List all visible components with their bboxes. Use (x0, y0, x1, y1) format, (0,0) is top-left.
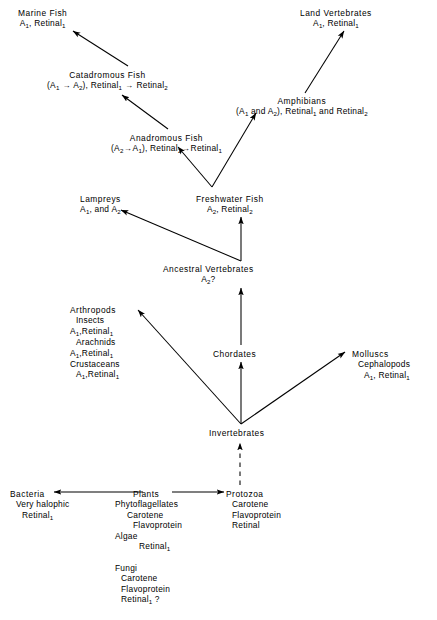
edge-catadromous-to-marine (73, 31, 128, 66)
node-detail: Flavoprotein (115, 584, 182, 594)
node-detail: (A1 → A2), Retinal1 → Retinal2 (47, 80, 168, 91)
node-chordates: Chordates (213, 349, 256, 359)
edge-amphibians-to-land (305, 31, 344, 93)
edge-layer (0, 0, 437, 620)
node-detail: Retinal1 (10, 510, 70, 521)
node-title: Invertebrates (209, 428, 264, 438)
node-freshwater-fish: Freshwater FishA2, Retinal2 (196, 194, 264, 216)
edge-invertebrates-to-arthropods (138, 310, 241, 424)
node-marine-fish: Marine FishA1, Retinal1 (18, 8, 67, 30)
node-detail: Retinal (226, 520, 281, 530)
node-title: Marine Fish (18, 8, 67, 18)
node-bacteria: BacteriaVery halophicRetinal1 (10, 489, 70, 521)
node-amphibians: Amphibians(A1 and A2), Retinal1 and Reti… (236, 96, 368, 118)
evolution-flow-diagram: Marine FishA1, Retinal1Land VertebratesA… (0, 0, 437, 620)
node-detail: Retinal1 (115, 541, 182, 552)
node-detail: Fungi (115, 563, 182, 573)
node-ancestral-vertebrates: Ancestral VertebratesA2? (163, 264, 254, 286)
node-detail: Cephalopods (352, 359, 410, 369)
node-detail: A2? (163, 274, 254, 285)
node-title: Plants (115, 489, 182, 499)
node-detail: A1, and A2 (80, 204, 121, 215)
node-title: Lampreys (80, 194, 121, 204)
node-detail: Phytoflagellates (115, 499, 182, 509)
node-detail: (A1 and A2), Retinal1 and Retinal2 (236, 106, 368, 117)
edge-anadromous-to-catadromous (122, 95, 168, 129)
node-title: Ancestral Vertebrates (163, 264, 254, 274)
node-detail: A1, Retinal1 (300, 18, 372, 29)
node-anadromous-fish: Anadromous Fish(A2→A1), Retinal2→Retinal… (111, 133, 222, 155)
node-title: Amphibians (236, 96, 368, 106)
node-detail: Crustaceans (70, 359, 120, 369)
edge-invertebrates-to-molluscs (241, 352, 345, 424)
node-detail: Carotene (115, 573, 182, 583)
node-detail: Arachnids (70, 337, 120, 347)
node-title: Bacteria (10, 489, 70, 499)
node-detail: A1,Retinal1 (70, 326, 120, 337)
node-catadromous-fish: Catadromous Fish(A1 → A2), Retinal1 → Re… (47, 70, 168, 92)
node-detail: Flavoprotein (226, 510, 281, 520)
node-title: Land Vertebrates (300, 8, 372, 18)
edge-ancestral-to-lampreys (121, 210, 241, 261)
node-detail: Very halophic (10, 499, 70, 509)
node-plants: PlantsPhytoflagellatesCaroteneFlavoprote… (115, 489, 182, 605)
node-detail: Insects (70, 315, 120, 325)
node-title: Anadromous Fish (111, 133, 222, 143)
node-title: Chordates (213, 349, 256, 359)
node-invertebrates: Invertebrates (209, 428, 264, 438)
node-title: Freshwater Fish (196, 194, 264, 204)
node-detail (115, 552, 182, 562)
node-detail: Carotene (115, 510, 182, 520)
node-detail: (A2→A1), Retinal2→Retinal1 (111, 143, 222, 154)
node-arthropods: ArthropodsInsectsA1,Retinal1ArachnidsA1,… (70, 305, 120, 381)
node-detail: Flavoprotein (115, 520, 182, 530)
node-detail: A1, Retinal1 (352, 370, 410, 381)
node-detail: Algae (115, 531, 182, 541)
node-molluscs: MolluscsCephalopodsA1, Retinal1 (352, 349, 410, 381)
node-detail: Retinal1 ? (115, 594, 182, 605)
node-detail: A2, Retinal2 (196, 204, 264, 215)
node-title: Catadromous Fish (47, 70, 168, 80)
node-title: Molluscs (352, 349, 410, 359)
node-title: Protozoa (226, 489, 281, 499)
node-title: Arthropods (70, 305, 120, 315)
node-detail: A1, Retinal1 (18, 18, 67, 29)
node-lampreys: LampreysA1, and A2 (80, 194, 121, 216)
node-protozoa: ProtozoaCaroteneFlavoproteinRetinal (226, 489, 281, 531)
node-detail: A1,Retinal1 (70, 348, 120, 359)
node-detail: A1,Retinal1 (70, 369, 120, 380)
node-land-vertebrates: Land VertebratesA1, Retinal1 (300, 8, 372, 30)
node-detail: Carotene (226, 499, 281, 509)
